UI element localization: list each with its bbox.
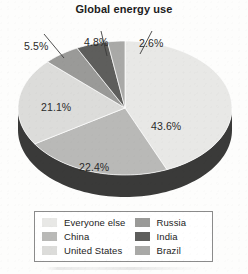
legend-swatch-china bbox=[42, 232, 57, 241]
slice-label-united-states: 21.1% bbox=[41, 101, 71, 113]
slice-label-china: 22.4% bbox=[79, 161, 109, 173]
legend-item-russia: Russia bbox=[135, 215, 212, 229]
legend-label-china: China bbox=[64, 231, 89, 242]
legend-item-united-states: United States bbox=[42, 244, 126, 258]
slice-label-brazil: 2.6% bbox=[139, 37, 163, 49]
legend-label-brazil: Brazil bbox=[157, 245, 181, 256]
slice-label-everyone-else: 43.6% bbox=[151, 120, 181, 132]
legend-item-india: India bbox=[135, 229, 212, 243]
legend-swatch-russia bbox=[135, 218, 150, 227]
legend-column-left: Everyone else China United States bbox=[35, 215, 126, 258]
legend-label-united-states: United States bbox=[64, 245, 122, 256]
legend-swatch-brazil bbox=[135, 246, 150, 255]
legend-label-everyone-else: Everyone else bbox=[64, 217, 126, 228]
legend-label-russia: Russia bbox=[157, 217, 187, 228]
slice-label-india: 4.8% bbox=[84, 36, 108, 48]
legend-swatch-united-states bbox=[42, 246, 57, 255]
chart-title: Global energy use bbox=[0, 3, 248, 15]
legend-item-brazil: Brazil bbox=[135, 244, 212, 258]
slice-label-russia: 5.5% bbox=[24, 40, 48, 52]
scan-artifact-smudge bbox=[46, 267, 202, 270]
legend-column-right: Russia India Brazil bbox=[126, 215, 212, 258]
legend-swatch-everyone-else bbox=[42, 218, 57, 227]
pie-chart-figure: Global energy use 43.6% 22.4% 21.1 bbox=[0, 0, 248, 274]
legend-label-india: India bbox=[157, 231, 178, 242]
legend-item-china: China bbox=[42, 229, 126, 243]
pie-chart-plot-area: 43.6% 22.4% 21.1% 5.5% 4.8% 2.6% bbox=[0, 18, 248, 208]
legend-swatch-india bbox=[135, 232, 150, 241]
legend-item-everyone-else: Everyone else bbox=[42, 215, 126, 229]
chart-legend: Everyone else China United States Russia… bbox=[34, 211, 213, 262]
